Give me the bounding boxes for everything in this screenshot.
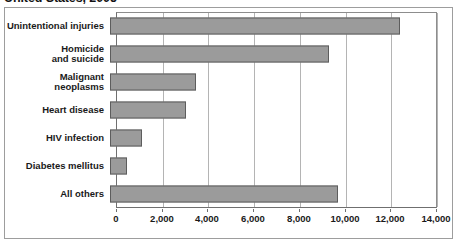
x-tick-label: 6,000 xyxy=(241,213,265,224)
bar[interactable] xyxy=(110,46,329,63)
x-tick-label: 2,000 xyxy=(150,213,174,224)
bar-row: Diabetes mellitus xyxy=(0,152,459,180)
category-label: Heart disease xyxy=(0,105,110,116)
bar-row: Heart disease xyxy=(0,96,459,124)
bar-track xyxy=(110,68,459,96)
category-label: Homicide and suicide xyxy=(0,44,110,65)
category-label: Malignant neoplasms xyxy=(0,72,110,93)
bar[interactable] xyxy=(110,130,142,147)
bar-row: All others xyxy=(0,180,459,208)
bar-track xyxy=(110,40,459,68)
x-tick-mark xyxy=(345,209,346,212)
x-tick-label: 10,000 xyxy=(330,213,359,224)
bar-row: Malignant neoplasms xyxy=(0,68,459,96)
x-tick-mark xyxy=(436,209,437,212)
bar[interactable] xyxy=(110,18,400,35)
x-tick-label: 14,000 xyxy=(421,213,450,224)
bar-track xyxy=(110,124,459,152)
bar[interactable] xyxy=(110,74,196,91)
bar-track xyxy=(110,152,459,180)
x-tick-mark xyxy=(116,209,117,212)
x-tick-label: 8,000 xyxy=(287,213,311,224)
bar[interactable] xyxy=(110,158,127,175)
x-tick-mark xyxy=(299,209,300,212)
bar-track xyxy=(110,180,459,208)
category-label: HIV infection xyxy=(0,133,110,144)
bar-row: HIV infection xyxy=(0,124,459,152)
bar-row: Homicide and suicide xyxy=(0,40,459,68)
bar-track xyxy=(110,96,459,124)
bar-row: Unintentional injuries xyxy=(0,12,459,40)
x-tick-mark xyxy=(207,209,208,212)
x-tick-mark xyxy=(253,209,254,212)
bar[interactable] xyxy=(110,102,186,119)
category-label: Unintentional injuries xyxy=(0,21,110,32)
x-tick-mark xyxy=(390,209,391,212)
x-tick-mark xyxy=(162,209,163,212)
chart-title: United States, 2005 xyxy=(4,0,117,5)
x-tick-label: 4,000 xyxy=(195,213,219,224)
x-tick-label: 12,000 xyxy=(375,213,404,224)
x-tick-label: 0 xyxy=(113,213,118,224)
bar-track xyxy=(110,12,459,40)
category-label: Diabetes mellitus xyxy=(0,161,110,172)
category-label: All others xyxy=(0,189,110,200)
x-axis: 02,0004,0006,0008,00010,00012,00014,000 xyxy=(0,209,459,231)
bar-rows: Unintentional injuriesHomicide and suici… xyxy=(0,12,459,208)
bar[interactable] xyxy=(110,186,338,203)
